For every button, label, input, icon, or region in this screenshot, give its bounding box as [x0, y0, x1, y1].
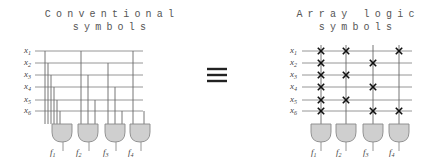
- and-gate-f3: [105, 124, 125, 142]
- output-label-f4: f4: [389, 147, 395, 158]
- and-gate-f4: [389, 124, 409, 142]
- output-label-f3: f3: [103, 147, 109, 158]
- conventional-diagram: x1x2x3x4x5x6f1f2f3f4: [23, 45, 150, 158]
- input-label-x1: x1: [23, 45, 31, 56]
- input-label-x6: x6: [23, 105, 31, 116]
- and-gate-f2: [78, 124, 98, 142]
- and-gate-f1: [311, 124, 331, 142]
- input-label-x4: x4: [23, 81, 31, 92]
- and-gate-f2: [336, 124, 356, 142]
- input-label-x6: x6: [289, 105, 297, 116]
- output-label-f1: f1: [50, 147, 56, 158]
- and-gate-f4: [130, 124, 150, 142]
- equivalence-symbol: [207, 69, 227, 81]
- input-label-x1: x1: [289, 45, 297, 56]
- input-label-x2: x2: [289, 57, 297, 68]
- and-gate-f1: [52, 124, 72, 142]
- output-label-f1: f1: [311, 147, 317, 158]
- array-logic-diagram: x1x2x3x4x5x6f1f2f3f4: [289, 45, 412, 158]
- output-label-f2: f2: [76, 147, 82, 158]
- input-label-x2: x2: [23, 57, 31, 68]
- output-label-f3: f3: [363, 147, 369, 158]
- output-label-f4: f4: [128, 147, 134, 158]
- and-gate-f3: [363, 124, 383, 142]
- input-label-x4: x4: [289, 81, 297, 92]
- input-label-x3: x3: [23, 69, 31, 80]
- output-label-f2: f2: [336, 147, 342, 158]
- input-label-x5: x5: [289, 94, 297, 105]
- logic-diagram: x1x2x3x4x5x6f1f2f3f4x1x2x3x4x5x6f1f2f3f4: [0, 0, 431, 162]
- input-label-x3: x3: [289, 69, 297, 80]
- input-label-x5: x5: [23, 94, 31, 105]
